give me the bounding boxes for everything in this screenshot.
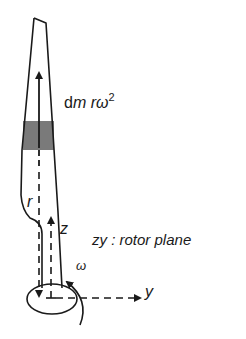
force-label: dm rω2 [64,91,115,111]
radius-label: r [27,193,33,210]
rotor-blade-diagram: dm rω2 r z y ω zy : rotor plane [0,0,246,339]
rotor-plane-label: zy : rotor plane [91,231,191,248]
omega-label: ω [76,258,86,273]
z-axis-label: z [59,220,68,237]
hub-ellipse [27,284,77,314]
y-axis-label: y [144,283,154,300]
blade-outline [21,18,62,288]
